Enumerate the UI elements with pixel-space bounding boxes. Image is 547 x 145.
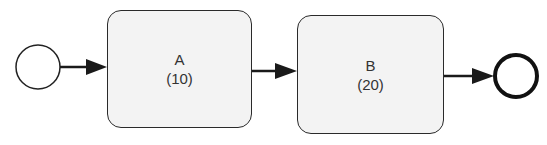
task-b-name: B — [365, 56, 375, 75]
flow-start-to-a[interactable] — [60, 59, 107, 75]
flow-a-to-b[interactable] — [251, 63, 297, 79]
task-b[interactable]: B (20) — [297, 15, 444, 134]
task-a[interactable]: A (10) — [107, 10, 252, 128]
end-event[interactable] — [495, 55, 537, 97]
task-a-duration: (10) — [166, 69, 193, 88]
flow-b-to-end[interactable] — [443, 68, 494, 84]
task-a-name: A — [174, 50, 184, 69]
start-event[interactable] — [16, 45, 60, 89]
task-b-duration: (20) — [357, 75, 384, 94]
diagram-canvas — [0, 0, 547, 145]
